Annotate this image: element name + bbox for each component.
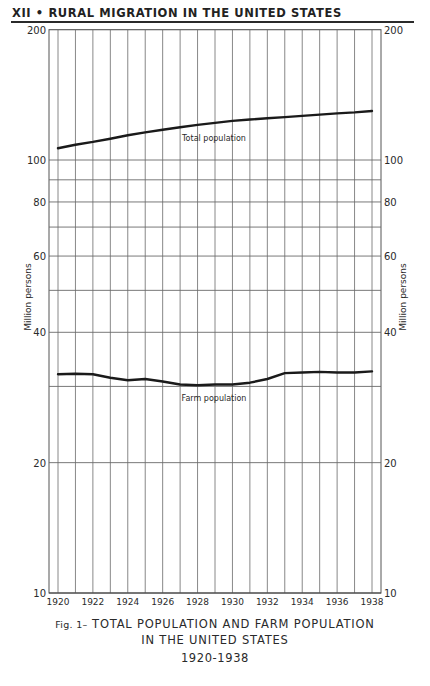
y-tick-label-left: 80 (33, 197, 46, 208)
x-tick-label: 1926 (151, 597, 174, 607)
y-tick-label-right: 10 (384, 588, 397, 599)
farm-population-label: Farm population (182, 394, 247, 403)
y-tick-label-left: 60 (33, 251, 46, 262)
total-population-label: Total population (181, 134, 246, 143)
figure-caption-line1: Fig. 1– TOTAL POPULATION AND FARM POPULA… (0, 617, 430, 631)
y-tick-label-right: 40 (384, 327, 397, 338)
y-tick-label-left: 20 (33, 458, 46, 469)
x-tick-label: 1920 (47, 597, 70, 607)
y-tick-label-right: 80 (384, 197, 397, 208)
x-tick-label: 1938 (361, 597, 384, 607)
y-tick-label-left: 10 (33, 588, 46, 599)
figure-caption-years: 1920-1938 (0, 651, 430, 665)
y-tick-label-left: 200 (27, 25, 46, 36)
y-axis-title-right: Million persons (398, 263, 408, 331)
y-axis-title-left: Million persons (23, 263, 33, 331)
x-tick-label: 1930 (221, 597, 244, 607)
x-tick-label: 1932 (256, 597, 279, 607)
population-chart: 1010202040406060808010010020020019201922… (0, 0, 430, 686)
x-tick-label: 1934 (291, 597, 314, 607)
x-tick-label: 1924 (116, 597, 139, 607)
figure-number: Fig. 1– (55, 619, 87, 630)
y-tick-label-left: 40 (33, 327, 46, 338)
x-tick-label: 1928 (186, 597, 209, 607)
y-tick-label-right: 200 (384, 25, 403, 36)
x-tick-label: 1936 (326, 597, 349, 607)
figure-caption-line2: IN THE UNITED STATES (0, 633, 430, 647)
y-tick-label-right: 100 (384, 155, 403, 166)
y-tick-label-right: 20 (384, 458, 397, 469)
y-tick-label-right: 60 (384, 251, 397, 262)
x-tick-label: 1922 (81, 597, 104, 607)
figure-title: TOTAL POPULATION AND FARM POPULATION (92, 617, 375, 631)
y-tick-label-left: 100 (27, 155, 46, 166)
